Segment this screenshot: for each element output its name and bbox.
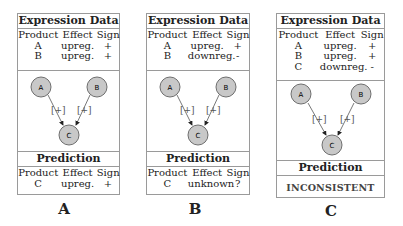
cell-sign: - bbox=[360, 62, 384, 73]
table-header-row: Product Effect Sign bbox=[277, 30, 384, 41]
edge-label: [+] bbox=[77, 105, 92, 115]
col-sign: Sign bbox=[97, 168, 119, 179]
edge-label: [+] bbox=[206, 105, 221, 115]
expression-data-title: Expression Data bbox=[277, 14, 384, 29]
col-product: Product bbox=[147, 168, 188, 179]
node-c-label: C bbox=[67, 132, 72, 140]
edge-label: [+] bbox=[180, 105, 195, 115]
cell-effect: downreg. bbox=[188, 51, 227, 62]
cell-product: C bbox=[18, 179, 58, 190]
col-sign: Sign bbox=[227, 168, 249, 179]
expression-data-title: Expression Data bbox=[18, 14, 119, 29]
panel-a: Expression Data Product Effect Sign A up… bbox=[17, 13, 120, 195]
cell-effect: upreg. bbox=[58, 51, 96, 62]
cell-sign: + bbox=[360, 51, 384, 62]
panel-label-c: C bbox=[316, 202, 346, 220]
prediction-title: Prediction bbox=[147, 152, 249, 167]
regulatory-graph: [+] [+] A B C bbox=[18, 71, 119, 152]
col-product: Product bbox=[147, 30, 188, 41]
cell-product: B bbox=[277, 51, 320, 62]
cell-sign: - bbox=[227, 51, 249, 62]
col-product: Product bbox=[277, 30, 320, 41]
panel-c: Expression Data Product Effect Sign A up… bbox=[276, 13, 385, 198]
cell-product: B bbox=[147, 51, 188, 62]
node-a-label: A bbox=[168, 84, 173, 92]
col-product: Product bbox=[18, 30, 58, 41]
node-a-label: A bbox=[299, 91, 304, 99]
regulatory-graph: [+] [+] A B C bbox=[147, 71, 249, 152]
node-b-label: B bbox=[224, 84, 229, 92]
regulatory-graph: [+] [+] A B C bbox=[277, 81, 384, 161]
col-effect: Effect bbox=[58, 30, 96, 41]
cell-effect: upreg. bbox=[320, 51, 361, 62]
table-row: C unknown ? bbox=[147, 179, 249, 190]
expression-table: Product Effect Sign A upreg. + B upreg. … bbox=[277, 29, 384, 81]
prediction-title: Prediction bbox=[18, 152, 119, 167]
node-b-label: B bbox=[95, 84, 100, 92]
panel-label-b: B bbox=[180, 200, 210, 218]
table-row: C downreg. - bbox=[277, 62, 384, 73]
table-header-row: Product Effect Sign bbox=[147, 168, 249, 179]
table-row: B downreg. - bbox=[147, 51, 249, 62]
col-effect: Effect bbox=[188, 30, 227, 41]
cell-effect: downreg. bbox=[320, 62, 361, 73]
cell-product: B bbox=[18, 51, 58, 62]
node-c-label: C bbox=[330, 142, 335, 150]
expression-table: Product Effect Sign A upreg. + B upreg. … bbox=[18, 29, 119, 71]
cell-effect: unknown bbox=[188, 179, 227, 190]
col-effect: Effect bbox=[320, 30, 361, 41]
col-sign: Sign bbox=[227, 30, 249, 41]
expression-table: Product Effect Sign A upreg. + B downreg… bbox=[147, 29, 249, 71]
col-sign: Sign bbox=[360, 30, 384, 41]
col-effect: Effect bbox=[58, 168, 96, 179]
edge-label: [+] bbox=[51, 105, 66, 115]
col-effect: Effect bbox=[188, 168, 227, 179]
cell-product: C bbox=[147, 179, 188, 190]
table-row: B upreg. + bbox=[277, 51, 384, 62]
table-row: C upreg. + bbox=[18, 179, 119, 190]
expression-data-title: Expression Data bbox=[147, 14, 249, 29]
col-sign: Sign bbox=[97, 30, 119, 41]
panel-label-a: A bbox=[49, 200, 79, 218]
cell-sign: ? bbox=[227, 179, 249, 190]
cell-effect: upreg. bbox=[58, 179, 96, 190]
prediction-title: Prediction bbox=[277, 161, 384, 176]
table-row: B upreg. + bbox=[18, 51, 119, 62]
edge-label: [+] bbox=[312, 114, 327, 124]
table-header-row: Product Effect Sign bbox=[147, 30, 249, 41]
prediction-table: Product Effect Sign C unknown ? bbox=[147, 167, 249, 189]
table-header-row: Product Effect Sign bbox=[18, 168, 119, 179]
prediction-result: INCONSISTENT bbox=[277, 176, 384, 200]
cell-sign: + bbox=[97, 51, 119, 62]
panel-b: Expression Data Product Effect Sign A up… bbox=[146, 13, 250, 195]
cell-product: C bbox=[277, 62, 320, 73]
cell-sign: + bbox=[97, 179, 119, 190]
node-a-label: A bbox=[39, 84, 44, 92]
col-product: Product bbox=[18, 168, 58, 179]
edge-label: [+] bbox=[340, 114, 355, 124]
node-b-label: B bbox=[359, 91, 364, 99]
table-header-row: Product Effect Sign bbox=[18, 30, 119, 41]
node-c-label: C bbox=[196, 132, 201, 140]
prediction-table: Product Effect Sign C upreg. + bbox=[18, 167, 119, 189]
